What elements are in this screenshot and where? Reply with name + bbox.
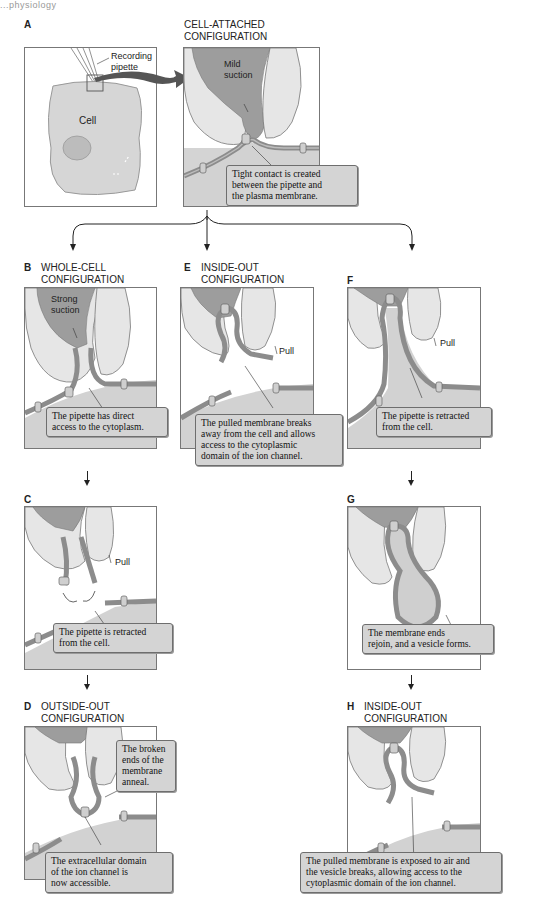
callout-line: The pipette is retracted: [59, 627, 167, 638]
page-header-cut: ...physiology: [0, 0, 57, 10]
callout-line: rejoin, and a vesicle forms.: [368, 639, 488, 650]
callout-line: from the cell.: [59, 638, 167, 649]
panel-f-letter: F: [347, 275, 353, 286]
callout-line: domain of the ion channel.: [201, 451, 337, 462]
callout-line: the vesicle breaks, allowing access to t…: [306, 867, 496, 878]
mild-suction-line2: suction: [224, 70, 253, 80]
panel-e-callout: The pulled membrane breaks away from the…: [195, 414, 343, 466]
panel-e-letter: E: [184, 262, 191, 273]
callout-line: The extracellular domain: [51, 856, 167, 867]
callout-line: now accessible.: [51, 878, 167, 889]
arrow-down-icon: [87, 471, 88, 481]
panel-h-title-2: CONFIGURATION: [364, 713, 447, 725]
callout-line: between the pipette and: [232, 180, 352, 191]
panel-h-title-1: INSIDE-OUT: [364, 701, 422, 713]
panel-e-pull: Pull: [279, 346, 294, 356]
callout-line: The membrane ends: [368, 628, 488, 639]
pipette-label-line2: pipette: [111, 62, 138, 72]
panel-c-callout: The pipette is retracted from the cell.: [53, 623, 173, 653]
callout-line: cytoplasmic domain of the ion channel.: [306, 878, 496, 889]
panel-a: Recording pipette Cell: [24, 47, 157, 207]
panel-f-callout: The pipette is retracted from the cell.: [376, 407, 492, 437]
arrow-down-icon: [411, 675, 412, 685]
cell-attached-title-1: CELL-ATTACHED: [184, 19, 265, 31]
panel-a-letter: A: [24, 19, 31, 30]
callout-line: from the cell.: [382, 422, 486, 433]
callout-line: The pulled membrane is exposed to air an…: [306, 856, 496, 867]
panel-b-title-1: WHOLE-CELL: [41, 262, 106, 274]
panel-b-callout: The pipette has direct access to the cyt…: [46, 407, 168, 437]
panel-c-pull: Pull: [115, 557, 130, 567]
cell-attached-callout: Tight contact is created between the pip…: [226, 165, 358, 206]
panel-d-callout-top: The broken ends of the membrane anneal.: [116, 740, 176, 792]
panel-f-pull: Pull: [440, 338, 455, 348]
panel-h-letter: H: [347, 701, 354, 712]
panel-h-callout: The pulled membrane is exposed to air an…: [300, 852, 502, 893]
strong-suction-line1: Strong: [51, 294, 78, 304]
callout-line: ends of the: [122, 755, 170, 766]
panel-d-letter: D: [24, 701, 31, 712]
panel-b-title-2: CONFIGURATION: [41, 274, 124, 286]
callout-line: The pipette has direct: [52, 411, 162, 422]
callout-line: membrane: [122, 766, 170, 777]
callout-line: The pipette is retracted: [382, 411, 486, 422]
callout-line: access to the cytoplasm.: [52, 422, 162, 433]
panel-g-letter: G: [347, 494, 355, 505]
callout-line: away from the cell and allows: [201, 429, 337, 440]
callout-line: access to the cytoplasmic: [201, 440, 337, 451]
panel-g-callout: The membrane ends rejoin, and a vesicle …: [362, 624, 494, 654]
mild-suction-line1: Mild: [224, 59, 241, 69]
callout-line: of the ion channel is: [51, 867, 167, 878]
callout-line: Tight contact is created: [232, 169, 352, 180]
panel-d-title-2: CONFIGURATION: [41, 713, 124, 725]
pipette-label-line1: Recording: [111, 51, 152, 61]
panel-d-callout-bottom: The extracellular domain of the ion chan…: [45, 852, 173, 893]
panel-e-title-1: INSIDE-OUT: [201, 262, 259, 274]
cell-attached-title-2: CONFIGURATION: [184, 31, 267, 43]
arrow-down-icon: [87, 675, 88, 685]
panel-c-letter: C: [24, 494, 31, 505]
arrow-down-icon: [411, 471, 412, 481]
callout-line: anneal.: [122, 777, 170, 788]
cell-label: Cell: [79, 116, 96, 126]
callout-line: The broken: [122, 744, 170, 755]
panel-d-title-1: OUTSIDE-OUT: [41, 701, 110, 713]
callout-line: the plasma membrane.: [232, 191, 352, 202]
callout-line: The pulled membrane breaks: [201, 418, 337, 429]
strong-suction-line2: suction: [51, 305, 80, 315]
panel-b-letter: B: [24, 262, 31, 273]
panel-e-title-2: CONFIGURATION: [201, 274, 284, 286]
